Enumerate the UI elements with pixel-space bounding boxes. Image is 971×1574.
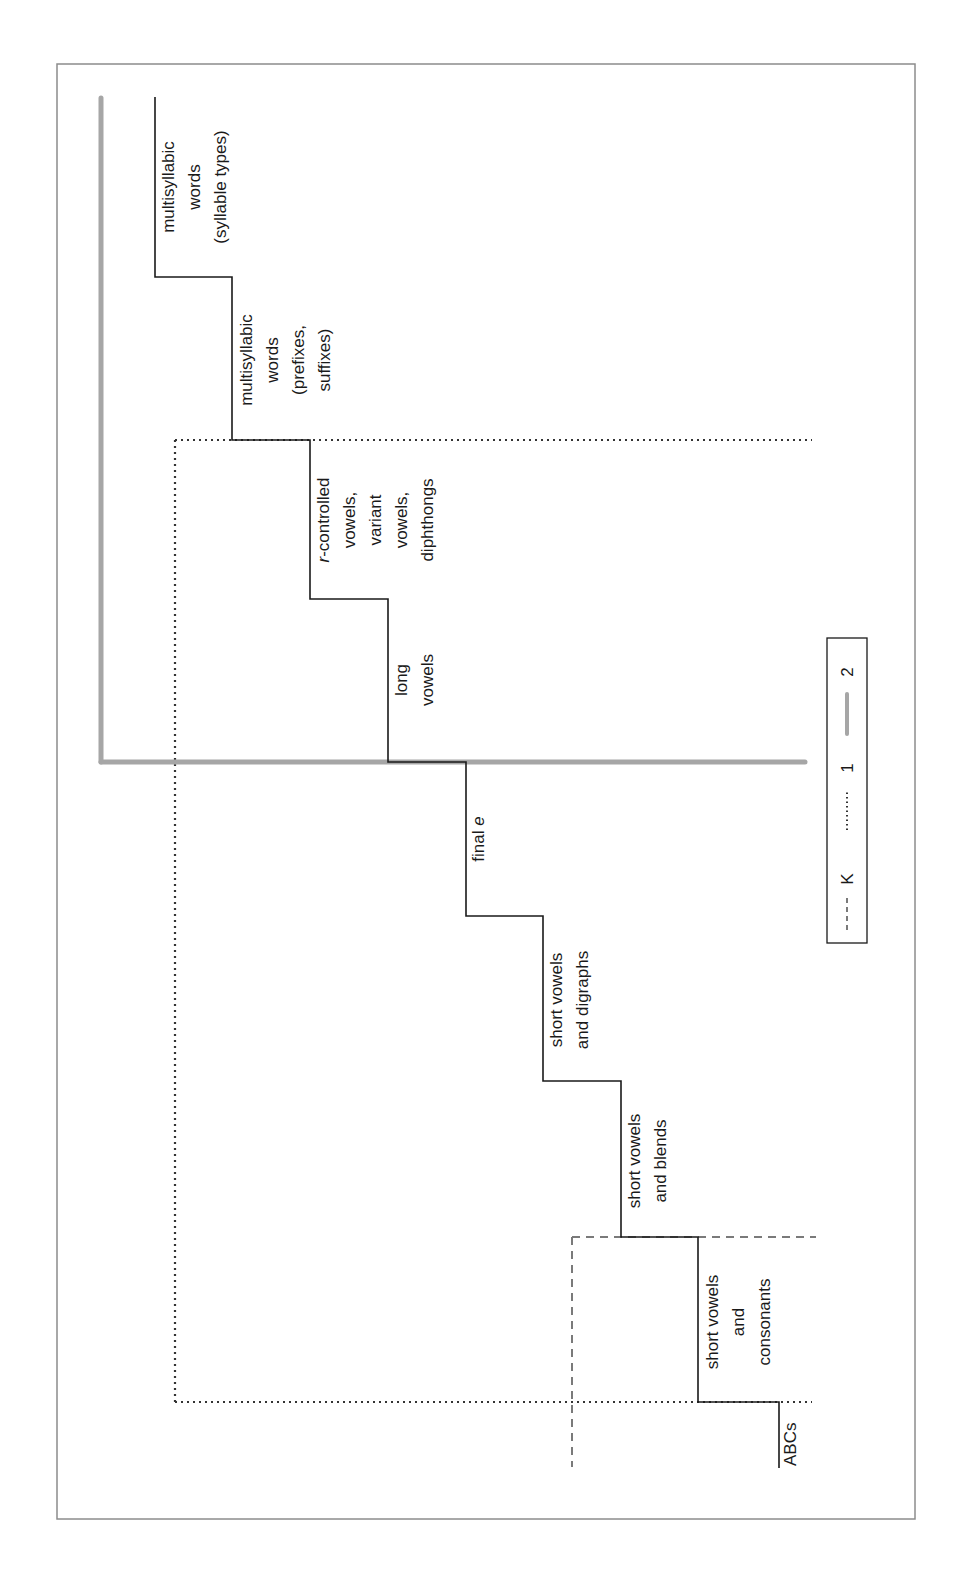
svg-text:r-controlled: r-controlled <box>314 477 333 562</box>
svg-text:and blends: and blends <box>651 1119 670 1202</box>
svg-text:vowels,: vowels, <box>392 492 411 549</box>
svg-text:multisyllabic: multisyllabic <box>159 141 178 233</box>
grade-2-boundary <box>101 98 805 762</box>
step-multisyllabic-prefixes: multisyllabic words (prefixes, suffixes) <box>237 314 334 406</box>
staircase-line <box>155 97 779 1468</box>
step-long-vowels: long vowels <box>392 654 437 706</box>
step-short-vowels-blends: short vowels and blends <box>625 1114 670 1208</box>
svg-text:vowels: vowels <box>418 654 437 706</box>
svg-text:words: words <box>185 164 204 210</box>
step-short-vowels-digraphs: short vowels and digraphs <box>547 951 592 1049</box>
svg-text:ABCs: ABCs <box>781 1423 800 1466</box>
svg-text:long: long <box>392 664 411 696</box>
svg-text:and: and <box>729 1308 748 1336</box>
svg-text:short vowels: short vowels <box>547 953 566 1047</box>
svg-text:(prefixes,: (prefixes, <box>289 325 308 395</box>
svg-text:multisyllabic: multisyllabic <box>237 314 256 406</box>
svg-text:and digraphs: and digraphs <box>573 951 592 1049</box>
step-r-controlled: r-controlled vowels, variant vowels, dip… <box>314 477 437 562</box>
step-multisyllabic-syllable-types: multisyllabic words (syllable types) <box>159 130 230 243</box>
svg-text:words: words <box>263 337 282 383</box>
grade-1-boundary <box>175 440 812 1402</box>
step-final-e: final e <box>469 816 488 861</box>
legend-k-label: K <box>838 873 857 885</box>
legend: K 1 2 <box>827 638 867 943</box>
svg-text:consonants: consonants <box>755 1279 774 1366</box>
svg-text:final e: final e <box>469 816 488 861</box>
legend-2-label: 2 <box>838 667 857 676</box>
diagram-canvas: ABCs short vowels and consonants short v… <box>0 0 971 1574</box>
svg-text:vowels,: vowels, <box>340 492 359 549</box>
step-abcs: ABCs <box>781 1423 800 1466</box>
svg-text:(syllable types): (syllable types) <box>211 130 230 243</box>
svg-text:short vowels: short vowels <box>625 1114 644 1208</box>
legend-box <box>827 638 867 943</box>
legend-1-label: 1 <box>838 763 857 772</box>
svg-text:diphthongs: diphthongs <box>418 478 437 561</box>
svg-text:variant: variant <box>366 494 385 545</box>
svg-text:suffixes): suffixes) <box>315 329 334 392</box>
step-short-vowels-consonants: short vowels and consonants <box>703 1275 774 1369</box>
diagram-frame <box>57 64 915 1519</box>
svg-text:short vowels: short vowels <box>703 1275 722 1369</box>
